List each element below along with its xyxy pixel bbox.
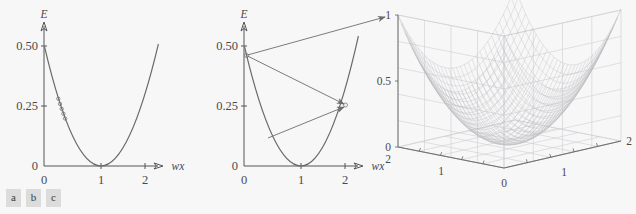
panel-c-xtick-2: 2	[626, 135, 632, 147]
panel-b-xtick-2: 2	[342, 173, 348, 187]
figure-three-panel-error-surfaces: 0.50 0.25 0 E 0 1 2 wx	[0, 0, 636, 214]
panel-a-x-axis-label: wx	[172, 160, 186, 172]
panel-c-ztick-1: 0.5	[377, 75, 392, 87]
panel-a-xtick-2: 2	[142, 173, 148, 187]
panel-b-y-axis-label: E	[239, 8, 247, 20]
panel-c-ztick-0: 1	[385, 9, 391, 21]
arrow-tangent-up-right	[248, 17, 386, 55]
panel-b-gradient-descent: 0.50 0.25 0 E 0 1 2 wx	[200, 0, 395, 190]
arrow-to-right-branch	[248, 56, 345, 104]
panel-c-ytick-1: 1	[438, 165, 444, 177]
panel-c-ytick-2: 0	[501, 177, 507, 189]
panel-c-ytick-0: 2	[385, 153, 391, 165]
panel-b-y-axis	[241, 22, 247, 166]
panel-b-xtick-1: 1	[298, 173, 304, 187]
panel-b-ytick-2: 0	[232, 159, 238, 173]
panel-a-ytick-2: 0	[32, 159, 38, 173]
caption-tag-a: a	[6, 189, 21, 207]
panel-c-xtick-1: 1	[561, 166, 567, 178]
panel-a-error-curve: 0.50 0.25 0 E 0 1 2 wx	[0, 0, 205, 190]
panel-b-parabola	[245, 36, 359, 166]
panel-a-xtick-1: 1	[98, 173, 104, 187]
caption-tag-c: c	[46, 189, 61, 207]
panel-a-y-axis	[41, 22, 47, 166]
panel-b-ytick-0: 0.50	[216, 39, 238, 53]
panel-a-ytick-0: 0.50	[16, 39, 38, 53]
caption-tag-b: b	[26, 189, 41, 207]
panel-a-xtick-0: 0	[41, 173, 47, 187]
panel-b-ytick-1: 0.25	[216, 99, 238, 113]
arrow-from-left-branch	[268, 107, 344, 138]
panel-b-xtick-0: 0	[241, 173, 247, 187]
panel-a-y-axis-label: E	[39, 8, 47, 20]
panel-c-ztick-2: 0	[385, 141, 391, 153]
caption-tag-row: a b c	[6, 189, 61, 207]
panel-c-error-surface-3d: 1 0.5 0 2 1 0 1 2	[375, 0, 636, 190]
panel-a-ytick-1: 0.25	[16, 99, 38, 113]
